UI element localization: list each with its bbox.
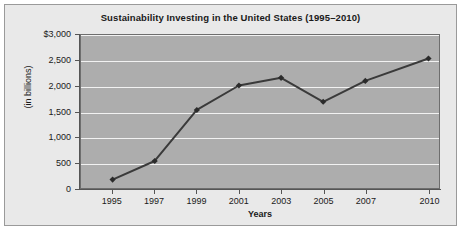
y-axis-line — [79, 34, 80, 190]
x-tick-label: 2005 — [304, 196, 344, 206]
x-tick-mark — [281, 190, 282, 194]
x-tick-mark — [239, 190, 240, 194]
data-point-marker — [425, 55, 431, 61]
y-tick-label: 2,500 — [13, 55, 71, 65]
x-tick-label: 2010 — [409, 196, 449, 206]
y-tick-mark — [75, 86, 79, 87]
y-tick-label: 2,000 — [13, 81, 71, 91]
x-tick-mark — [196, 190, 197, 194]
y-tick-mark — [75, 60, 79, 61]
x-tick-mark — [366, 190, 367, 194]
x-tick-label: 2007 — [346, 196, 386, 206]
data-series-line — [81, 35, 439, 188]
x-tick-label: 1997 — [134, 196, 174, 206]
x-tick-label: 2003 — [261, 196, 301, 206]
y-tick-mark — [75, 112, 79, 113]
x-tick-label: 2001 — [219, 196, 259, 206]
x-tick-mark — [112, 190, 113, 194]
x-axis-title: Years — [80, 209, 440, 219]
x-tick-label: 1999 — [176, 196, 216, 206]
y-tick-label: 1,000 — [13, 132, 71, 142]
y-tick-mark — [75, 163, 79, 164]
chart-title: Sustainability Investing in the United S… — [5, 12, 456, 23]
plot-area — [80, 34, 440, 189]
y-tick-label: $3,000 — [13, 29, 71, 39]
x-axis-line — [79, 189, 441, 190]
x-tick-label: 1995 — [92, 196, 132, 206]
x-tick-mark — [429, 190, 430, 194]
y-tick-label: 0 — [13, 184, 71, 194]
series-polyline — [113, 58, 429, 179]
y-tick-mark — [75, 137, 79, 138]
chart-figure: Sustainability Investing in the United S… — [4, 4, 457, 226]
data-point-marker — [110, 177, 116, 183]
y-tick-mark — [75, 34, 79, 35]
y-tick-label: 500 — [13, 158, 71, 168]
x-tick-mark — [154, 190, 155, 194]
y-tick-label: 1,500 — [13, 107, 71, 117]
x-tick-mark — [324, 190, 325, 194]
